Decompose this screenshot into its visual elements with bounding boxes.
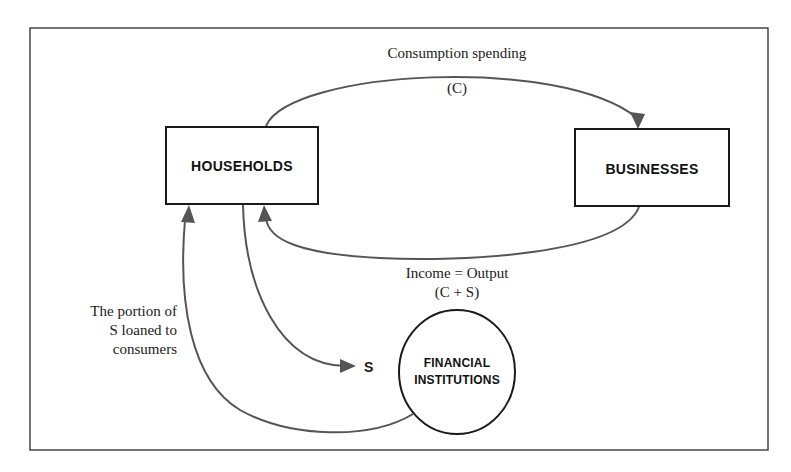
households-label: HOUSEHOLDS	[191, 158, 293, 174]
figure-frame	[30, 28, 768, 450]
businesses-node: BUSINESSES	[575, 129, 729, 206]
savings-flow: S	[243, 205, 373, 375]
savings-arrowhead-icon	[340, 359, 356, 373]
income-symbol-label: (C + S)	[435, 284, 479, 301]
financial-institutions-circle	[399, 310, 515, 434]
savings-label: S	[364, 359, 373, 375]
consumption-arrowhead-icon	[630, 112, 645, 129]
households-node: HOUSEHOLDS	[166, 127, 318, 204]
consumption-flow: Consumption spending (C)	[266, 45, 645, 129]
consumption-label: Consumption spending	[388, 45, 527, 61]
income-arrowhead-icon	[258, 205, 272, 222]
financial-institutions-label-line-2: INSTITUTIONS	[414, 373, 500, 387]
income-arrow-line	[266, 207, 639, 259]
savings-arrow-line	[243, 205, 345, 366]
income-label: Income = Output	[406, 265, 509, 281]
loans-label-line-3: consumers	[113, 341, 177, 357]
financial-institutions-node: FINANCIAL INSTITUTIONS	[399, 310, 515, 434]
financial-institutions-label-line-1: FINANCIAL	[424, 356, 490, 370]
businesses-label: BUSINESSES	[605, 161, 698, 177]
loans-label-line-1: The portion of	[90, 303, 177, 319]
loans-label-line-2: S loaned to	[110, 322, 178, 338]
loans-arrowhead-icon	[181, 205, 195, 223]
circular-flow-diagram: Consumption spending (C) Income = Output…	[0, 0, 791, 472]
income-flow: Income = Output (C + S)	[258, 205, 639, 301]
loans-flow: The portion of S loaned to consumers	[90, 205, 413, 432]
loans-arrow-line	[183, 220, 413, 432]
consumption-symbol-label: (C)	[447, 80, 467, 97]
